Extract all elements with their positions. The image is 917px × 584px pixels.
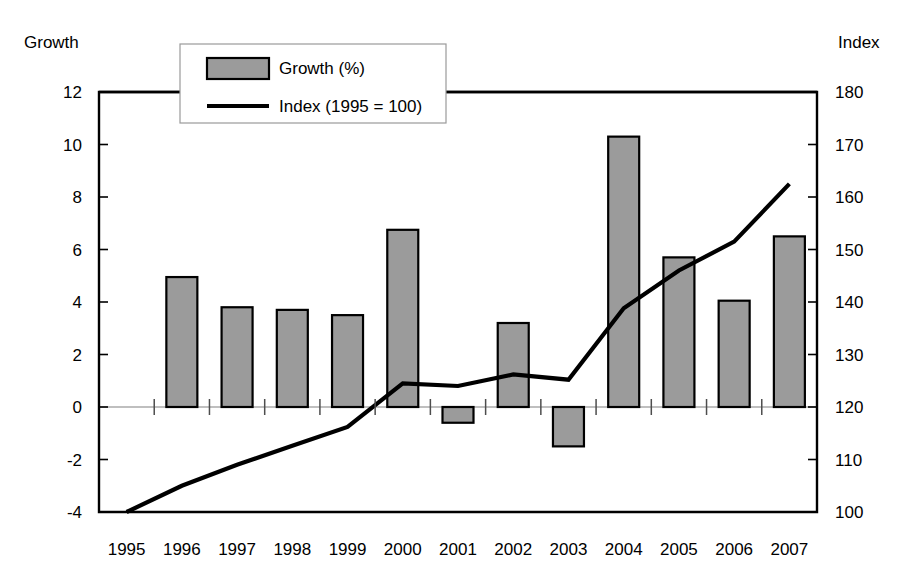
growth-index-combo-chart: Growth Index 121086420-2-4 1801701601501…	[0, 0, 917, 584]
legend-label-1: Growth (%)	[279, 59, 365, 78]
bar-1997	[222, 307, 253, 407]
left-tick-label: -4	[67, 503, 82, 522]
right-tick-label: 100	[835, 503, 863, 522]
left-tick-label: 6	[73, 241, 82, 260]
x-axis-label-1997: 1997	[218, 540, 256, 559]
bar-1996	[166, 277, 197, 407]
bar-2001	[443, 407, 474, 423]
left-tick-label: -2	[67, 451, 82, 470]
x-axis-label-2005: 2005	[660, 540, 698, 559]
left-axis-title: Growth	[24, 33, 79, 52]
chart-legend: Growth (%)Index (1995 = 100)	[180, 44, 446, 123]
bar-2007	[774, 236, 805, 407]
left-tick-label: 2	[73, 346, 82, 365]
left-axis-ticks: 121086420-2-4	[63, 83, 108, 522]
left-tick-label: 12	[63, 83, 82, 102]
right-tick-label: 110	[835, 451, 862, 470]
legend-label-2: Index (1995 = 100)	[279, 97, 422, 116]
bar-2000	[387, 230, 418, 407]
chart-container: Growth Index 121086420-2-4 1801701601501…	[0, 0, 917, 584]
right-tick-label: 120	[835, 398, 863, 417]
x-axis-label-1996: 1996	[163, 540, 201, 559]
bar-2002	[498, 323, 529, 407]
x-axis-label-2003: 2003	[550, 540, 588, 559]
right-tick-label: 150	[835, 241, 863, 260]
plot-border	[99, 92, 817, 512]
bar-1999	[332, 315, 363, 407]
x-axis-label-2000: 2000	[384, 540, 422, 559]
x-axis-label-1999: 1999	[329, 540, 367, 559]
bar-2004	[608, 137, 639, 407]
left-tick-label: 0	[73, 398, 82, 417]
left-tick-label: 8	[73, 188, 82, 207]
right-tick-label: 170	[835, 136, 863, 155]
plot-frame	[99, 92, 817, 512]
x-axis-label-2007: 2007	[770, 540, 808, 559]
right-tick-label: 160	[835, 188, 863, 207]
x-axis-label-2004: 2004	[605, 540, 643, 559]
right-tick-label: 130	[835, 346, 863, 365]
x-axis-label-2001: 2001	[439, 540, 477, 559]
bar-2003	[553, 407, 584, 446]
x-axis-label-1995: 1995	[108, 540, 146, 559]
bar-1998	[277, 310, 308, 407]
x-axis-label-2006: 2006	[715, 540, 753, 559]
right-axis-title: Index	[838, 33, 880, 52]
left-tick-label: 10	[63, 136, 82, 155]
x-axis-labels: 1995199619971998199920002001200220032004…	[108, 540, 809, 559]
right-tick-label: 180	[835, 83, 863, 102]
bar-2006	[719, 301, 750, 407]
right-tick-label: 140	[835, 293, 863, 312]
x-axis-label-1998: 1998	[273, 540, 311, 559]
x-axis-label-2002: 2002	[494, 540, 532, 559]
left-tick-label: 4	[73, 293, 82, 312]
legend-swatch-bar	[207, 58, 269, 79]
